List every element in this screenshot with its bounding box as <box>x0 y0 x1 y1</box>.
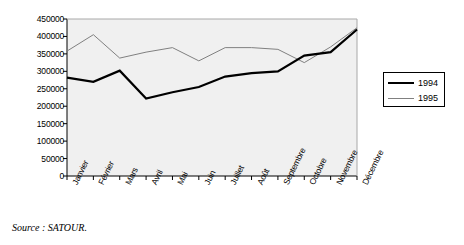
legend-entry-1995: 1995 <box>384 90 444 106</box>
x-axis-tick-label: Juillet <box>228 164 246 187</box>
chart-figure: 4500004000003500003000002500002000001500… <box>0 0 464 245</box>
x-axis-tick-label: Octobre <box>307 156 329 186</box>
chart-legend: 1994 1995 <box>383 72 445 107</box>
legend-label-1995: 1995 <box>418 93 438 103</box>
legend-label-1994: 1994 <box>418 78 438 88</box>
x-axis-tick-label: Juin <box>202 169 217 187</box>
x-axis-tick-label: Mars <box>123 166 140 187</box>
x-axis-tick-label: Septembre <box>281 146 307 186</box>
x-axis-labels: JanvierFévrierMarsAvrilMaiJuinJuilletAoû… <box>0 0 464 245</box>
x-axis-tick-label: Novembre <box>334 148 359 186</box>
legend-swatch-1995 <box>388 98 414 99</box>
x-axis-tick-label: Mai <box>175 170 190 186</box>
x-axis-tick-label: Avril <box>149 168 165 186</box>
legend-entry-1994: 1994 <box>384 75 444 91</box>
x-axis-tick-label: Août <box>255 167 271 186</box>
x-axis-tick-label: Février <box>96 159 116 186</box>
source-caption: Source : SATOUR. <box>12 222 87 233</box>
x-axis-tick-label: Janvier <box>70 159 90 187</box>
x-axis-tick-label: Décembre <box>360 148 385 186</box>
legend-swatch-1994 <box>388 82 414 84</box>
